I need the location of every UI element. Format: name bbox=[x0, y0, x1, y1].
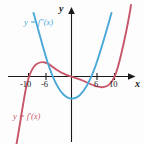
xtick-label-minus-10: -10 bbox=[20, 80, 31, 89]
derivative-graph-figure: y x -10 -6 6 10 y = f″(x) y = f′(x) bbox=[0, 0, 145, 144]
xtick-label-10: 10 bbox=[109, 80, 118, 89]
y-axis-label: y bbox=[59, 4, 63, 14]
plot-canvas bbox=[0, 0, 145, 144]
second-derivative-label: y = f″(x) bbox=[24, 18, 53, 27]
x-axis-label: x bbox=[135, 79, 140, 89]
y-axis-arrowhead bbox=[68, 7, 75, 14]
xtick-label-minus-6: -6 bbox=[41, 80, 48, 89]
first-derivative-label: y = f′(x) bbox=[13, 112, 40, 121]
xtick-label-6: 6 bbox=[94, 80, 98, 89]
